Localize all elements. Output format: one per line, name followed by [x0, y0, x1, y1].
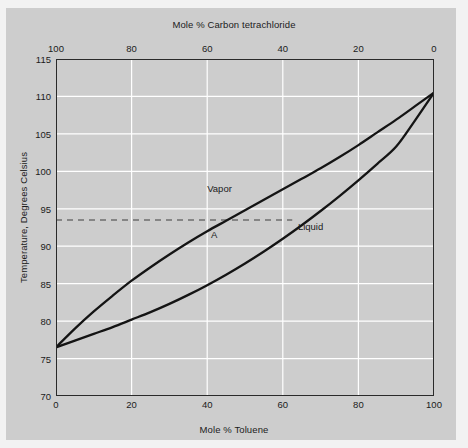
top-tick-20: 20	[353, 43, 364, 54]
top-axis-title: Mole % Carbon tetrachloride	[0, 19, 468, 30]
y-tick-100: 100	[30, 166, 51, 177]
y-tick-75: 75	[30, 353, 51, 364]
y-tick-90: 90	[30, 241, 51, 252]
x-tick-40: 40	[202, 399, 213, 410]
x-tick-20: 20	[126, 399, 137, 410]
annotation-a: A	[211, 229, 217, 240]
top-tick-60: 60	[202, 43, 213, 54]
annotation-liquid: Liquid	[298, 221, 323, 232]
top-tick-0: 0	[431, 43, 436, 54]
y-tick-115: 115	[30, 54, 51, 65]
y-tick-80: 80	[30, 316, 51, 327]
x-tick-0: 0	[53, 399, 58, 410]
top-tick-40: 40	[278, 43, 289, 54]
plot-area: VaporLiquidA	[56, 59, 434, 396]
y-tick-110: 110	[30, 91, 51, 102]
y-tick-105: 105	[30, 128, 51, 139]
y-tick-85: 85	[30, 278, 51, 289]
y-tick-95: 95	[30, 203, 51, 214]
x-tick-60: 60	[278, 399, 289, 410]
x-tick-100: 100	[426, 399, 442, 410]
plot-frame	[56, 59, 434, 396]
top-tick-80: 80	[126, 43, 137, 54]
top-tick-100: 100	[48, 43, 64, 54]
x-axis-title: Mole % Toluene	[0, 424, 468, 435]
phase-diagram-figure: Mole % Carbon tetrachloride Mole % Tolue…	[0, 0, 468, 448]
y-axis-title: Temperature, Degrees Celsius	[18, 133, 29, 303]
y-tick-70: 70	[30, 391, 51, 402]
annotation-vapor: Vapor	[207, 183, 232, 194]
x-tick-80: 80	[353, 399, 364, 410]
